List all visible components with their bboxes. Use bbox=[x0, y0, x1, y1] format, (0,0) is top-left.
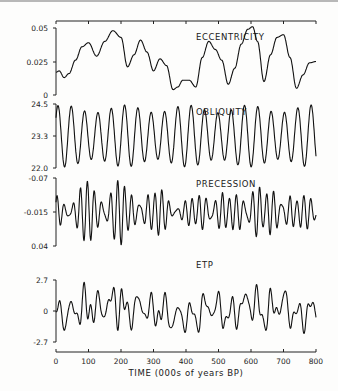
x-tick-label: 600 bbox=[244, 357, 259, 366]
panel-etp: 2.70-2.7ETP bbox=[33, 260, 316, 347]
x-axis-label: TIME (000s of years BP) bbox=[128, 368, 244, 378]
y-tick-label: 23.3 bbox=[31, 132, 48, 141]
x-tick-label: 500 bbox=[211, 357, 226, 366]
y-tick-label: 2.7 bbox=[36, 276, 48, 285]
x-tick-label: 700 bbox=[276, 357, 291, 366]
x-axis: 0100200300400500600700800 bbox=[54, 349, 324, 366]
panel-title: ETP bbox=[196, 260, 214, 270]
orbital-parameters-chart: 0.050.0250ECCENTRICITY24.523.322.0OBLIQU… bbox=[0, 0, 338, 391]
x-tick-label: 0 bbox=[54, 357, 59, 366]
y-tick-label: 24.5 bbox=[31, 100, 48, 109]
y-tick-label: -0.07 bbox=[29, 174, 49, 183]
panel-title: PRECESSION bbox=[196, 179, 256, 189]
series-line bbox=[56, 105, 316, 167]
y-tick-label: -0.015 bbox=[24, 208, 48, 217]
x-tick-label: 400 bbox=[179, 357, 194, 366]
y-tick-label: 0.05 bbox=[31, 24, 48, 33]
y-tick-label: 0.025 bbox=[27, 58, 49, 67]
x-tick-label: 300 bbox=[146, 357, 161, 366]
x-tick-label: 800 bbox=[309, 357, 324, 366]
series-line bbox=[56, 27, 316, 90]
panel-eccentricity: 0.050.0250ECCENTRICITY bbox=[27, 24, 316, 100]
y-tick-label: 22.0 bbox=[31, 164, 48, 173]
series-line bbox=[56, 282, 316, 333]
series-line bbox=[56, 181, 316, 245]
chart-panels: 0.050.0250ECCENTRICITY24.523.322.0OBLIQU… bbox=[24, 24, 316, 347]
y-tick-label: 0.04 bbox=[31, 242, 48, 251]
x-tick-label: 200 bbox=[114, 357, 129, 366]
panel-obliquity: 24.523.322.0OBLIQUITY bbox=[31, 100, 316, 173]
panel-precession: -0.07-0.0150.04PRECESSION bbox=[24, 174, 316, 251]
y-tick-label: 0 bbox=[43, 307, 48, 316]
y-tick-label: -2.7 bbox=[33, 338, 48, 347]
x-tick-label: 100 bbox=[81, 357, 96, 366]
y-tick-label: 0 bbox=[43, 91, 48, 100]
top-axis bbox=[56, 21, 316, 24]
